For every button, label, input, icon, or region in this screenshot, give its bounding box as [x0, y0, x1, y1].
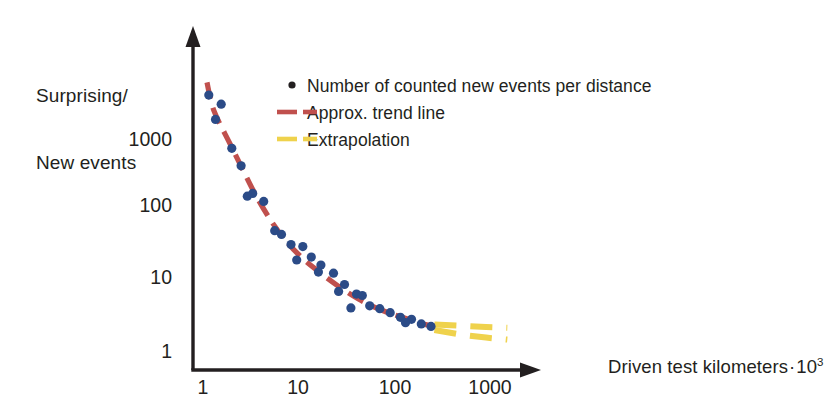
- x-axis-title-exponent: 3: [817, 356, 824, 368]
- scatter-point: [386, 308, 395, 317]
- x-axis: [191, 363, 541, 378]
- scatter-point: [286, 240, 295, 249]
- scatter-point: [334, 287, 343, 296]
- scatter-point: [417, 319, 426, 328]
- scatter-point: [277, 230, 286, 239]
- scatter-point: [358, 291, 367, 300]
- scatter-point: [259, 197, 268, 206]
- scatter-point: [365, 301, 374, 310]
- extrapolation-lower-line: [434, 330, 507, 340]
- scatter-point: [227, 144, 236, 153]
- scatter-point: [375, 304, 384, 313]
- trend-line: [207, 82, 434, 326]
- scatter-point: [426, 322, 435, 331]
- x-axis-arrow-icon: [520, 363, 541, 378]
- scatter-point: [237, 161, 246, 170]
- scatter-point: [307, 253, 316, 262]
- legend-marker-dot-icon: [288, 81, 295, 88]
- scatter-point: [346, 303, 355, 312]
- scatter-point: [298, 242, 307, 251]
- scatter-point: [204, 91, 213, 100]
- scatter-points: [204, 91, 435, 332]
- extrapolation-band: [434, 325, 507, 340]
- scatter-point: [401, 318, 410, 327]
- extrapolation-upper-line: [434, 325, 507, 328]
- scatter-point: [329, 269, 338, 278]
- trend-line-path: [207, 82, 434, 326]
- y-axis-arrow-icon: [186, 26, 201, 47]
- legend: [277, 81, 317, 139]
- scatter-point: [292, 255, 301, 264]
- scatter-point: [217, 100, 226, 109]
- scatter-point: [314, 268, 323, 277]
- scatter-point: [243, 192, 252, 201]
- y-axis: [186, 26, 201, 370]
- scatter-point: [211, 115, 220, 124]
